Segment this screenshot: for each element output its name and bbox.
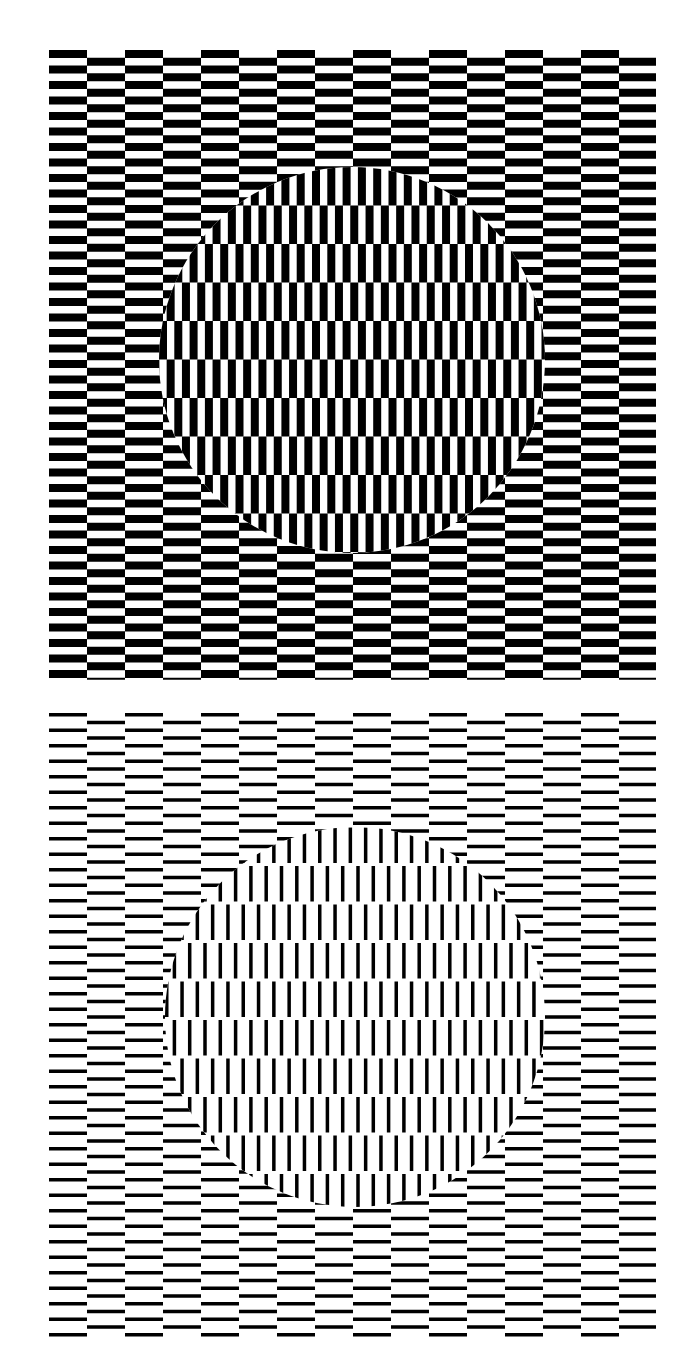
vertical-stripe-disc xyxy=(150,789,544,1210)
illusion-panel-thin xyxy=(0,690,696,1363)
horizontal-bar-field xyxy=(49,713,657,1360)
thick-stripe-illusion xyxy=(0,0,696,690)
illusion-panel-thick xyxy=(0,0,696,690)
thin-line-illusion xyxy=(0,690,696,1363)
